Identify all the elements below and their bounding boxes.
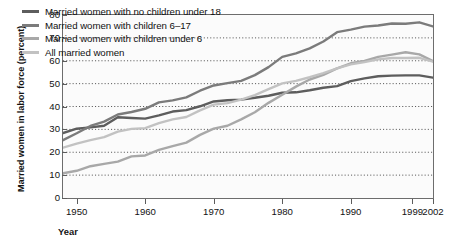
legend-label: Married women with children under 6 xyxy=(45,33,202,44)
x-tick-label-2002: 2002 xyxy=(422,206,443,217)
x-tick-label-1960: 1960 xyxy=(135,206,156,217)
x-tick-mark xyxy=(214,199,215,204)
legend-swatch-icon xyxy=(22,51,39,54)
chart-legend: Married women with no children under 18M… xyxy=(22,5,292,59)
x-tick-mark xyxy=(412,199,413,204)
chart-figure: Married women in labor force (percent) 0… xyxy=(0,0,467,247)
y-tick-mark xyxy=(62,152,67,153)
x-tick-mark xyxy=(351,199,352,204)
y-tick-mark xyxy=(62,129,67,130)
series-line-2 xyxy=(63,52,433,173)
x-tick-mark xyxy=(433,199,434,204)
y-tick-mark xyxy=(62,175,67,176)
x-tick-label-1980: 1980 xyxy=(272,206,293,217)
y-tick-mark xyxy=(62,107,67,108)
x-tick-mark xyxy=(145,199,146,204)
series-line-3 xyxy=(63,58,433,148)
legend-label: Married women with children 6–17 xyxy=(45,20,191,31)
legend-label: All married women xyxy=(45,47,124,58)
x-tick-label-1970: 1970 xyxy=(203,206,224,217)
legend-item-no-children-under-18[interactable]: Married women with no children under 18 xyxy=(22,5,292,19)
y-tick-mark xyxy=(62,84,67,85)
y-tick-mark xyxy=(62,38,67,39)
x-tick-mark xyxy=(282,199,283,204)
legend-item-children-under-6[interactable]: Married women with children under 6 xyxy=(22,32,292,46)
y-tick-mark xyxy=(62,198,67,199)
x-tick-mark xyxy=(77,199,78,204)
legend-item-all-married-women[interactable]: All married women xyxy=(22,46,292,60)
x-tick-label-1999: 1999 xyxy=(402,206,423,217)
x-tick-label-1990: 1990 xyxy=(340,206,361,217)
legend-label: Married women with no children under 18 xyxy=(45,6,221,17)
legend-swatch-icon xyxy=(22,24,39,27)
x-tick-label-1950: 1950 xyxy=(66,206,87,217)
legend-item-children-6-17[interactable]: Married women with children 6–17 xyxy=(22,19,292,33)
x-axis-title: Year xyxy=(58,226,78,237)
y-tick-mark xyxy=(62,61,67,62)
legend-swatch-icon xyxy=(22,37,39,40)
y-tick-mark xyxy=(62,15,67,16)
legend-swatch-icon xyxy=(22,10,39,13)
